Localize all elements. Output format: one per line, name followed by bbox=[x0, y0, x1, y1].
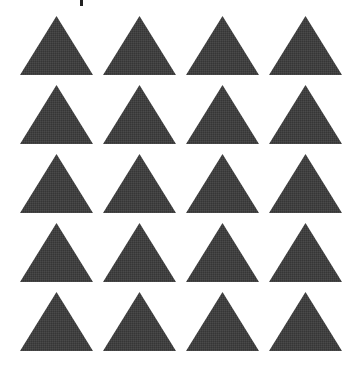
triangle-shape bbox=[269, 154, 342, 213]
triangle-shape bbox=[103, 85, 176, 144]
triangle-shape bbox=[103, 16, 176, 75]
triangle-shape bbox=[269, 292, 342, 351]
triangle-up-icon bbox=[20, 154, 93, 213]
triangle-up-icon bbox=[103, 85, 176, 144]
triangle-up-icon bbox=[186, 292, 259, 351]
triangle-up-icon bbox=[269, 85, 342, 144]
triangle-shape bbox=[20, 154, 93, 213]
triangle-up-icon bbox=[103, 154, 176, 213]
triangle-shape bbox=[269, 223, 342, 282]
triangle-up-icon bbox=[269, 223, 342, 282]
triangle-shape bbox=[186, 16, 259, 75]
triangle-grid bbox=[0, 0, 348, 370]
triangle-up-icon bbox=[103, 292, 176, 351]
triangle-shape bbox=[20, 85, 93, 144]
triangle-shape bbox=[103, 154, 176, 213]
triangle-shape bbox=[186, 154, 259, 213]
triangle-up-icon bbox=[269, 154, 342, 213]
triangle-shape bbox=[186, 85, 259, 144]
triangle-up-icon bbox=[186, 85, 259, 144]
triangle-up-icon bbox=[103, 223, 176, 282]
triangle-up-icon bbox=[186, 154, 259, 213]
triangle-shape bbox=[20, 223, 93, 282]
triangle-shape bbox=[103, 223, 176, 282]
triangle-up-icon bbox=[186, 223, 259, 282]
triangle-up-icon bbox=[269, 292, 342, 351]
triangle-up-icon bbox=[20, 223, 93, 282]
triangle-up-icon bbox=[186, 16, 259, 75]
triangle-shape bbox=[269, 85, 342, 144]
triangle-shape bbox=[103, 292, 176, 351]
triangle-up-icon bbox=[103, 16, 176, 75]
triangle-up-icon bbox=[20, 292, 93, 351]
triangle-shape bbox=[186, 292, 259, 351]
triangle-shape bbox=[20, 16, 93, 75]
triangle-shape bbox=[269, 16, 342, 75]
triangle-shape bbox=[186, 223, 259, 282]
triangle-up-icon bbox=[20, 16, 93, 75]
triangle-shape bbox=[20, 292, 93, 351]
triangle-up-icon bbox=[269, 16, 342, 75]
triangle-up-icon bbox=[20, 85, 93, 144]
